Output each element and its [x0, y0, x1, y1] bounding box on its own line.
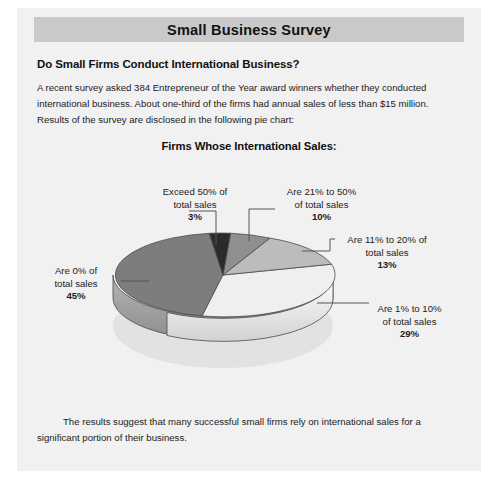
- pie-label-21-50-line1: Are 21% to 50%: [259, 186, 384, 199]
- pie-label-21-50: Are 21% to 50% of total sales 10%: [259, 186, 384, 224]
- pie-label-exceed50-line1: Exceed 50% of: [135, 186, 255, 199]
- pie-label-1-10-line2: of total sales: [347, 316, 472, 329]
- pie-label-1-10: Are 1% to 10% of total sales 29%: [347, 303, 472, 341]
- pie-label-0pct-value: 45%: [21, 290, 131, 303]
- conclusion-paragraph: The results suggest that many successful…: [37, 414, 457, 446]
- page-title: Small Business Survey: [167, 22, 331, 38]
- pie-label-exceed50-line2: total sales: [135, 199, 255, 212]
- pie-label-0pct-line1: Are 0% of: [21, 265, 131, 278]
- pie-label-21-50-value: 10%: [259, 211, 384, 224]
- section-heading: Do Small Firms Conduct International Bus…: [37, 58, 300, 70]
- intro-paragraph: A recent survey asked 384 Entrepreneur o…: [37, 80, 451, 128]
- document-page: Small Business Survey Do Small Firms Con…: [17, 8, 481, 471]
- pie-label-11-20-line2: total sales: [317, 247, 457, 260]
- pie-label-0pct: Are 0% of total sales 45%: [21, 265, 131, 303]
- pie-label-exceed50: Exceed 50% of total sales 3%: [135, 186, 255, 224]
- pie-label-exceed50-value: 3%: [135, 211, 255, 224]
- chart-title: Firms Whose International Sales:: [17, 140, 481, 152]
- pie-label-1-10-value: 29%: [347, 328, 472, 341]
- pie-chart: Exceed 50% of total sales 3% Are 21% to …: [17, 163, 481, 408]
- page-banner: Small Business Survey: [34, 17, 464, 42]
- pie-label-11-20-line1: Are 11% to 20% of: [317, 234, 457, 247]
- pie-label-21-50-line2: of total sales: [259, 199, 384, 212]
- pie-label-11-20: Are 11% to 20% of total sales 13%: [317, 234, 457, 272]
- pie-label-0pct-line2: total sales: [21, 278, 131, 291]
- pie-label-1-10-line1: Are 1% to 10%: [347, 303, 472, 316]
- pie-label-11-20-value: 13%: [317, 259, 457, 272]
